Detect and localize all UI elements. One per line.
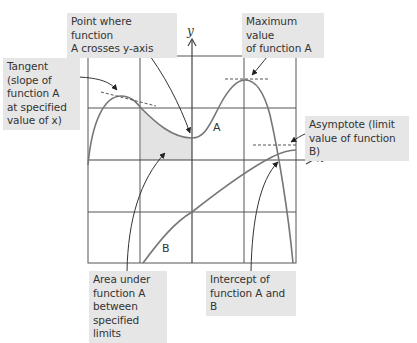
intercept-annotation: Intercept of function A and B [206,271,296,316]
y-crossing-annotation: Point where function A crosses y-axis [67,13,177,58]
tangent-arrow-icon [78,77,117,90]
intercept-arrow-icon [251,162,278,271]
maximum-annotation: Maximum value of function A [242,13,324,58]
function-b-label: B [162,242,170,255]
tangent-annotation: Tangent (slope of function A at specifie… [3,58,80,130]
function-a-label: A [213,121,221,134]
asymptote-annotation: Asymptote (limit value of function B) [305,116,409,161]
tangent-line [101,92,156,106]
axes [88,39,313,263]
y-axis-label: y [187,24,194,38]
area-annotation: Area under function A between specified … [89,271,167,343]
function-a-curve [88,80,293,263]
